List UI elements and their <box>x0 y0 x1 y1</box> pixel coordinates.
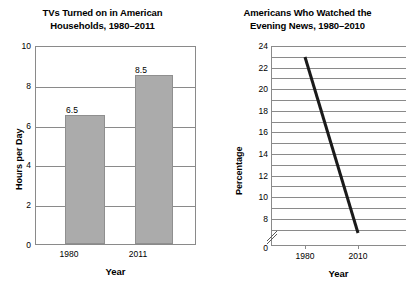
gridline-17 <box>272 122 406 123</box>
x-tick-label-1980-right: 1980 <box>280 252 330 261</box>
chart-title-right: Americans Who Watched the Evening News, … <box>205 6 410 32</box>
x-tick-label-1980: 1980 <box>44 250 94 259</box>
bar-1980[interactable] <box>65 115 105 244</box>
y-tick-label-14: 14 <box>226 150 268 158</box>
chart-title-left: TVs Turned on in American Households, 19… <box>0 6 205 32</box>
x-tick-label-2010-right: 2010 <box>333 252 383 261</box>
y-tick-label-12: 12 <box>226 172 268 180</box>
chart-title-left-line2: Households, 1980–2011 <box>0 19 205 32</box>
gridline-14 <box>272 154 406 155</box>
gridline-15 <box>272 143 406 144</box>
bar-value-label-1980: 6.5 <box>52 105 92 115</box>
x-tick-label-2011: 2011 <box>113 250 163 259</box>
gridline-16 <box>272 132 406 133</box>
x-axis-title-left: Year <box>35 266 196 277</box>
y-axis-tick-labels-right: 24 22 20 18 16 14 12 10 8 0 <box>226 40 268 255</box>
axis-break-icon <box>265 228 279 246</box>
bar-value-label-2011: 8.5 <box>121 65 161 75</box>
x-axis-title-right: Year <box>271 268 406 279</box>
gridline-13 <box>272 165 406 166</box>
gridline-12 <box>272 176 406 177</box>
gridline-11 <box>272 186 406 187</box>
y-tick-label-22: 22 <box>226 64 268 72</box>
y-tick-label-18: 18 <box>226 107 268 115</box>
y-tick-label-10: 10 <box>226 193 268 201</box>
gridline-9 <box>272 208 406 209</box>
y-axis-title-left: Hours per Day <box>14 128 24 190</box>
gridline-7 <box>272 230 406 231</box>
plot-area-left <box>35 46 196 245</box>
y-tick-label-origin: 0 <box>226 244 268 252</box>
y-tick-label-8: 8 <box>0 82 31 90</box>
gridline-18 <box>272 111 406 112</box>
gridline-24 <box>272 46 406 47</box>
gridline-21 <box>272 78 406 79</box>
x-tick-mark-2010 <box>358 245 359 249</box>
y-axis-title-right: Percentage <box>234 146 244 195</box>
x-axis-line-right <box>271 245 406 246</box>
gridline-19 <box>272 100 406 101</box>
y-tick-label-10: 10 <box>0 42 31 50</box>
chart-panel-tvs: TVs Turned on in American Households, 19… <box>0 0 205 290</box>
y-tick-label-20: 20 <box>226 85 268 93</box>
chart-title-left-line1: TVs Turned on in American <box>0 6 205 19</box>
gridline-8 <box>272 219 406 220</box>
gridline-23 <box>272 57 406 58</box>
chart-title-right-line2: Evening News, 1980–2010 <box>205 19 410 32</box>
gridline-20 <box>272 89 406 90</box>
y-tick-label-24: 24 <box>226 42 268 50</box>
bar-2011[interactable] <box>135 75 173 244</box>
gridline-22 <box>272 68 406 69</box>
y-tick-label-0: 0 <box>0 241 31 249</box>
chart-title-right-line1: Americans Who Watched the <box>205 6 410 19</box>
figure-canvas: TVs Turned on in American Households, 19… <box>0 0 410 290</box>
plot-area-right <box>271 46 406 245</box>
y-tick-label-16: 16 <box>226 128 268 136</box>
y-tick-label-2: 2 <box>0 201 31 209</box>
x-tick-mark-1980 <box>305 245 306 249</box>
y-tick-label-8: 8 <box>226 215 268 223</box>
gridline-10 <box>272 197 406 198</box>
